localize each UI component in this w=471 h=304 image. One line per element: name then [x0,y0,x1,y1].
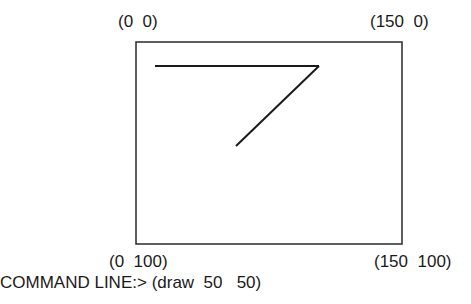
drawn-lines [155,66,319,146]
drawn-line [236,66,319,146]
corner-label-bottom-right: (150 100) [374,252,452,272]
command-prompt: COMMAND LINE:> [0,273,147,292]
corner-label-top-left: (0 0) [118,12,158,32]
canvas-frame [136,42,402,244]
command-line[interactable]: COMMAND LINE:> (draw 50 50) [0,273,261,293]
command-input[interactable]: (draw 50 50) [152,273,262,292]
corner-label-top-right: (150 0) [370,12,429,32]
corner-label-bottom-left: (0 100) [109,252,168,272]
